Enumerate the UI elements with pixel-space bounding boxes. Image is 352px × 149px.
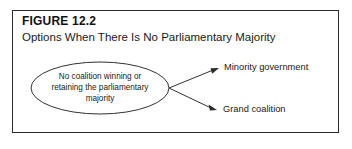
- figure-container: FIGURE 12.2 Options When There Is No Par…: [0, 0, 352, 149]
- branch-label-grand-coalition: Grand coalition: [223, 104, 286, 115]
- source-node-line-3: majority: [86, 94, 116, 103]
- diagram-canvas: No coalition winning or retaining the pa…: [0, 0, 352, 149]
- arrowhead-minority-government: [211, 68, 220, 74]
- branch-label-minority-government: Minority government: [224, 62, 308, 73]
- connector-to-grand-coalition: [169, 88, 210, 108]
- arrowhead-grand-coalition: [209, 105, 217, 111]
- source-node-line-2: retaining the parliamentary: [52, 83, 150, 92]
- source-node-line-1: No coalition winning or: [59, 72, 142, 81]
- connector-to-minority-government: [169, 71, 212, 89]
